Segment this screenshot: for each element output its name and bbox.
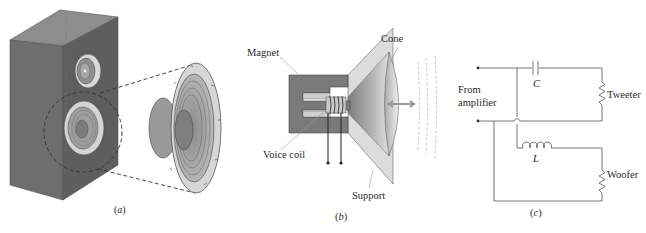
- woofer-label: Woofer: [607, 170, 638, 181]
- capacitor-icon: [533, 61, 538, 75]
- cabinet-front-face: [10, 40, 63, 200]
- panel-b-speaker-cross-section: [280, 28, 437, 188]
- magnet-label: Magnet: [247, 48, 279, 59]
- support-label: Support: [352, 191, 385, 202]
- panel-b-caption: (b): [335, 212, 347, 223]
- double-arrow-icon: [387, 100, 416, 108]
- inductor-label: L: [533, 154, 539, 165]
- voice-coil-icon: [326, 96, 346, 114]
- tweeter-icon: [75, 54, 101, 88]
- voice-coil-label: Voice coil: [263, 150, 305, 161]
- panel-a-caption: (a): [114, 204, 126, 216]
- exploded-woofer-icon: [149, 63, 221, 193]
- cone-label: Cone: [381, 34, 403, 45]
- inductor-icon: [523, 142, 552, 148]
- capacitor-label: C: [533, 79, 540, 90]
- source-label-line1: From: [458, 85, 481, 96]
- tweeter-resistor-icon: [599, 82, 605, 105]
- loudspeaker-figure: (a): [0, 0, 646, 233]
- panel-b-caption-letter: b: [339, 211, 344, 222]
- panel-c-caption-letter: c: [534, 207, 539, 218]
- source-label-line2: amplifier: [458, 98, 496, 109]
- panel-a-speaker-cabinet: [10, 10, 221, 200]
- panel-c-caption: (c): [530, 208, 542, 219]
- panel-c-crossover-circuit: [477, 61, 605, 201]
- tweeter-label: Tweeter: [607, 90, 641, 101]
- woofer-resistor-icon: [599, 170, 605, 193]
- sound-waves-icon: [418, 56, 437, 158]
- woofer-icon: [64, 101, 104, 155]
